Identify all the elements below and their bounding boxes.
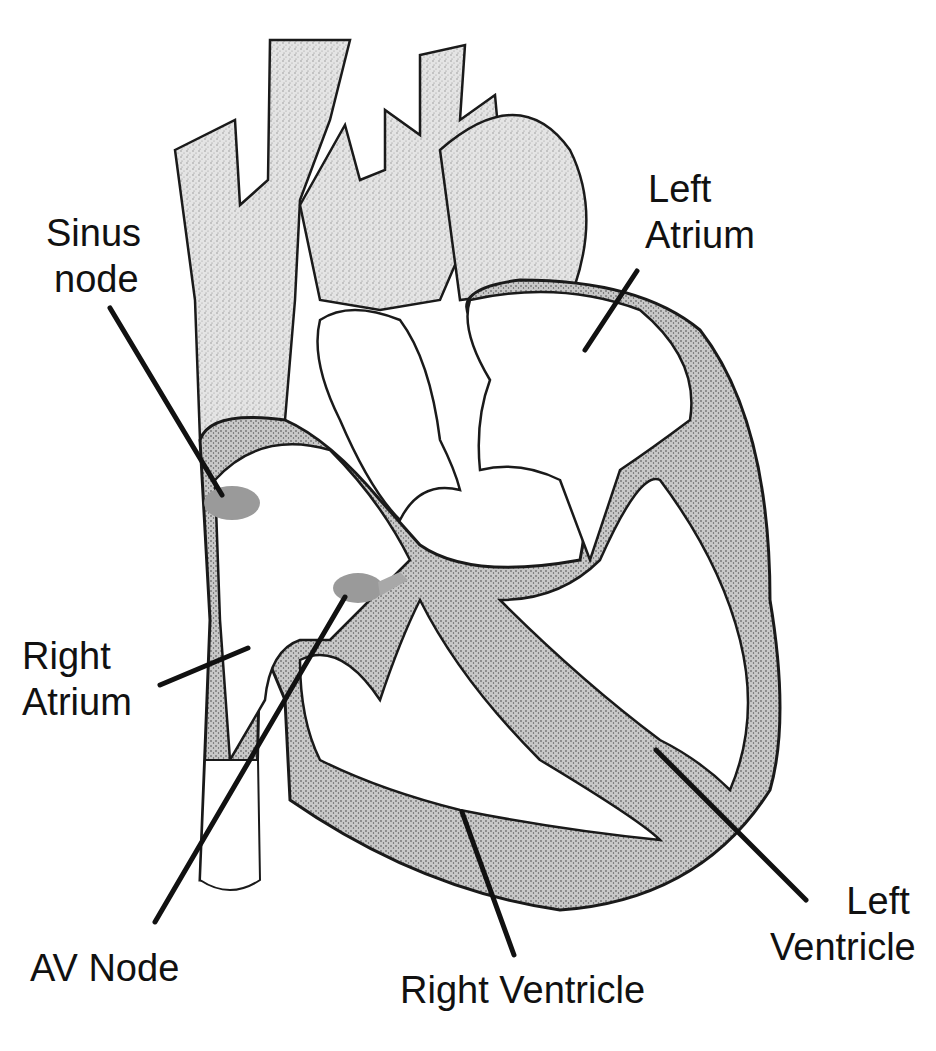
label-right-atrium-line1: Right	[22, 633, 132, 679]
label-sinus-node-line2: node	[46, 256, 141, 302]
label-right-ventricle: Right Ventricle	[400, 967, 645, 1013]
label-right-atrium: Right Atrium	[22, 633, 132, 725]
label-sinus-node: Sinus node	[46, 210, 141, 302]
label-left-ventricle: Left Ventricle	[770, 878, 916, 970]
label-av-node-line1: AV Node	[30, 945, 179, 991]
label-left-ventricle-line2: Ventricle	[770, 924, 916, 970]
label-left-atrium-line2: Atrium	[645, 212, 755, 258]
av-node-shape	[333, 573, 383, 603]
label-sinus-node-line1: Sinus	[46, 210, 141, 256]
label-left-atrium-line1: Left	[645, 166, 755, 212]
label-av-node: AV Node	[30, 945, 179, 991]
label-left-ventricle-line1: Left	[770, 878, 916, 924]
sinus-node-shape	[204, 486, 260, 520]
label-right-ventricle-line1: Right Ventricle	[400, 967, 645, 1013]
label-right-atrium-line2: Atrium	[22, 679, 132, 725]
label-left-atrium: Left Atrium	[645, 166, 755, 258]
pulmonary-artery	[440, 115, 586, 300]
